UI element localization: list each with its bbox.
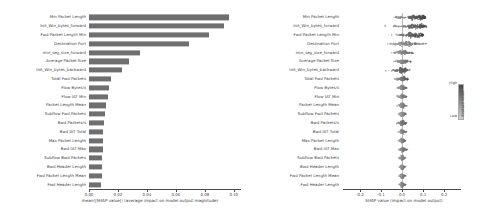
beeswarm-point [405,16,407,18]
beeswarm-x-tick-label: -0.2 [356,193,364,197]
bar-item [89,156,102,161]
beeswarm-point [406,34,408,36]
bar-fill [89,24,224,29]
beeswarm-point [399,96,401,98]
beeswarm-feature-axis-labels: Min Packet LengthInit_Win_bytes_forwardF… [246,13,339,189]
beeswarm-feature-label: Fwd Header Length [300,183,339,187]
bar-x-tick-label: 0.00 [85,193,94,197]
beeswarm-feature-label: Bwd IAT Total [313,130,339,134]
beeswarm-plot-area: -0.2-0.10.00.10.2 [343,13,461,189]
colorbar-title: Feature value [460,91,465,117]
bar-fill [89,32,209,37]
beeswarm-point [404,60,406,62]
bar-fill [89,164,102,169]
beeswarm-point [413,15,415,17]
beeswarm-point [421,34,423,36]
bar-fill [89,15,229,20]
bar-feature-label: Fwd Packet Length Min [41,33,86,37]
bar-feature-label: Subflow Fwd Packets [45,112,86,116]
bar-feature-axis-labels: Min Packet LengthInit_Win_bytes_forwardF… [0,13,86,189]
beeswarm-point [405,79,407,81]
beeswarm-point [384,25,386,27]
beeswarm-point [405,122,407,124]
bar-item [89,76,111,81]
bar-fill [89,147,103,152]
bar-feature-label: Bwd IAT Max [61,147,86,151]
bar-x-tick-label: 0.04 [143,193,152,197]
beeswarm-point [398,26,400,28]
beeswarm-point [406,87,408,89]
beeswarm-point [424,16,426,18]
bar-plot-area: 0.000.020.040.060.080.10 [89,13,241,189]
beeswarm-feature-label: Flow IAT Min [314,95,339,99]
bar-fill [89,50,140,55]
bar-fill [89,94,108,99]
beeswarm-point [393,17,395,19]
beeswarm-point [408,52,410,54]
beeswarm-point [409,16,411,18]
beeswarm-point [404,132,406,134]
bar-fill [89,103,106,108]
beeswarm-feature-label: Packet Length Mean [299,103,339,107]
beeswarm-point [406,44,408,46]
bar-x-axis [89,189,241,190]
beeswarm-point [391,52,393,54]
beeswarm-point [423,25,425,27]
beeswarm-feature-label: Bwd IAT Max [314,147,339,151]
beeswarm-point [395,61,397,63]
colorbar-high-label: High [449,82,457,86]
beeswarm-point [404,42,406,44]
beeswarm-feature-label: Fwd Packet Length Min [294,33,339,37]
beeswarm-feature-label: Bwd Header Length [300,165,339,169]
bar-item [89,120,104,125]
beeswarm-point [398,17,400,19]
beeswarm-x-tick-label: -0.1 [377,193,385,197]
beeswarm-point [414,35,416,37]
beeswarm-feature-label: Subflow Bwd Packets [297,156,339,160]
bar-fill [89,112,105,117]
beeswarm-point [405,113,407,115]
bar-item [89,68,122,73]
beeswarm-point [391,34,393,36]
beeswarm-point [399,131,401,133]
beeswarm-feature-label: Destination Port [307,42,339,46]
beeswarm-point [416,17,418,19]
beeswarm-point [399,50,401,52]
beeswarm-feature-label: min_seg_size_forward [296,51,339,55]
beeswarm-point [394,52,396,54]
beeswarm-point [400,184,402,186]
beeswarm-point [402,96,404,98]
beeswarm-point [401,78,403,80]
bar-item [89,15,229,20]
beeswarm-point [387,43,389,45]
bar-item [89,59,129,64]
beeswarm-point [406,52,408,54]
beeswarm-point [385,70,387,72]
beeswarm-point [394,17,396,19]
beeswarm-feature-label: Min Packet Length [303,15,339,19]
beeswarm-point [419,43,421,45]
bar-feature-label: Total Fwd Packets [51,77,86,81]
bar-feature-label: Flow Bytes/s [61,86,86,90]
beeswarm-point [395,26,397,28]
beeswarm-point [396,43,398,45]
bar-fill [89,129,103,134]
beeswarm-point [409,61,411,63]
bar-item [89,138,103,143]
bar-fill [89,182,101,187]
beeswarm-point [410,32,412,34]
beeswarm-point [399,105,401,107]
beeswarm-feature-label: Init_Win_bytes_forward [293,24,339,28]
beeswarm-x-tick-label: 0.1 [420,193,426,197]
bar-fill [89,41,189,46]
bar-fill [89,138,103,143]
bar-x-axis-title: mean(|SHAP value|) (average impact on mo… [60,199,240,203]
beeswarm-point [413,26,415,28]
bar-fill [89,156,102,161]
beeswarm-point [412,43,414,45]
beeswarm-point [396,34,398,36]
beeswarm-point [414,25,416,27]
beeswarm-point [403,149,405,151]
bar-item [89,182,101,187]
beeswarm-point [402,158,404,160]
